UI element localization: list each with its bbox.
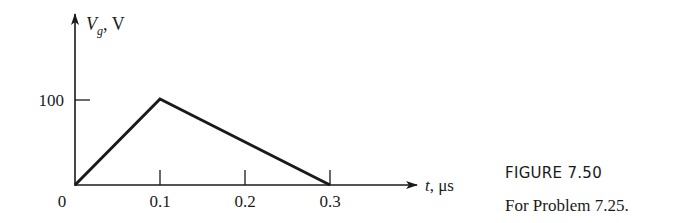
figure-caption: For Problem 7.25. — [505, 196, 629, 216]
y-tick-label-100: 100 — [39, 91, 65, 110]
y-axis-label: Vg, V — [86, 14, 125, 38]
figure-chart: Vg, V 100 0 0.1 0.2 0.3 t, μs — [0, 0, 687, 223]
figure-number: FIGURE 7.50 — [505, 164, 602, 182]
x-tick-label-0.2: 0.2 — [234, 192, 255, 211]
voltage-waveform — [75, 99, 330, 185]
x-tick-label-0.1: 0.1 — [149, 192, 170, 211]
origin-label: 0 — [58, 192, 67, 211]
x-axis-label: t, μs — [425, 176, 454, 195]
x-tick-label-0.3: 0.3 — [319, 192, 340, 211]
